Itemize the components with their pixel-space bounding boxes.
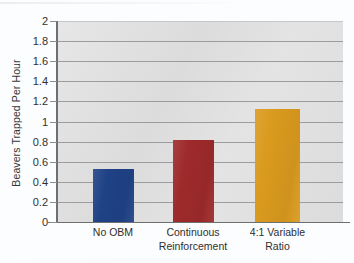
y-axis-tick-label: 2 <box>4 15 48 27</box>
y-axis-tick-label: 1.6 <box>4 55 48 67</box>
y-axis-tick-mark <box>50 21 57 22</box>
y-axis-tick-mark <box>50 142 57 143</box>
y-axis-tick-label: 1.8 <box>4 35 48 47</box>
gridline <box>57 101 343 102</box>
x-axis-tick-label: 4:1 VariableRatio <box>223 226 333 253</box>
bar-continuous-reinforcement <box>173 140 214 222</box>
x-axis-tick-label-line: 4:1 Variable <box>223 226 333 240</box>
y-axis-tick-mark <box>50 182 57 183</box>
y-axis-tick-mark <box>50 162 57 163</box>
y-axis-tick-label: 1.4 <box>4 75 48 87</box>
y-axis-tick-label: 0.2 <box>4 196 48 208</box>
gridline <box>57 41 343 42</box>
x-axis-tick-label-line: Ratio <box>223 240 333 254</box>
gridline <box>57 81 343 82</box>
y-axis-tick-mark <box>50 61 57 62</box>
plot-area <box>57 21 343 222</box>
bar-shading <box>173 140 214 222</box>
y-axis-tick-label: 1.2 <box>4 95 48 107</box>
gridline <box>57 61 343 62</box>
y-axis-tick-mark <box>50 81 57 82</box>
y-axis-tick-label: 0.8 <box>4 136 48 148</box>
bar-shading <box>255 109 300 222</box>
gridline <box>57 21 343 22</box>
y-axis-tick-mark <box>50 41 57 42</box>
bar-no-obm <box>93 169 134 222</box>
y-axis-tick-labels: 00.20.40.60.811.21.41.61.82 <box>0 0 48 263</box>
bar-4-1-variable-ratio <box>255 109 300 222</box>
x-axis-line <box>48 222 350 224</box>
y-axis-tick-label: 1 <box>4 116 48 128</box>
y-axis-tick-label: 0.6 <box>4 156 48 168</box>
y-axis-tick-mark <box>50 202 57 203</box>
gridline <box>57 122 343 123</box>
y-axis-tick-label: 0.4 <box>4 176 48 188</box>
bar-shading <box>93 169 134 222</box>
bar-chart-figure: Beavers Trapped Per Hour 00.20.40.60.811… <box>0 0 354 263</box>
y-axis-tick-label: 0 <box>4 216 48 228</box>
y-axis-tick-mark <box>50 101 57 102</box>
y-axis-tick-mark <box>50 222 57 223</box>
y-axis-tick-mark <box>50 122 57 123</box>
scan-artifact-bottom <box>0 258 354 263</box>
